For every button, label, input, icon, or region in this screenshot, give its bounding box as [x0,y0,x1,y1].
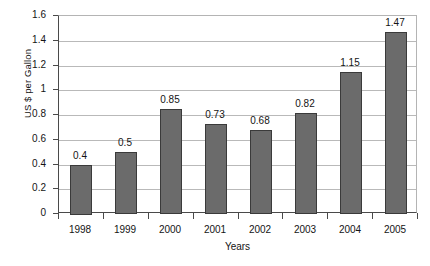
y-tick-label: 0.6 [18,134,46,144]
bar [250,130,272,214]
x-tick-mark [103,213,104,219]
bar-value-label: 0.85 [150,94,190,105]
bar-value-label: 0.68 [240,115,280,126]
x-tick-mark [327,213,328,219]
x-tick-label: 2003 [283,224,327,235]
x-tick-mark [417,213,418,219]
x-tick-mark [372,213,373,219]
bar-value-label: 1.15 [330,57,370,68]
y-tick-label: 1.6 [18,10,46,20]
y-tick-mark [53,164,58,165]
bar-chart: US $ per Gallon 00.20.40.60.811.21.41.6 … [0,0,430,266]
y-tick-mark [53,40,58,41]
y-tick-mark [53,114,58,115]
bar [115,152,137,214]
x-tick-mark [282,213,283,219]
gridline [59,41,416,42]
x-tick-label: 2002 [238,224,282,235]
gridline [59,115,416,116]
bar-value-label: 1.47 [375,17,415,28]
y-tick-label: 1.2 [18,60,46,70]
gridline [59,189,416,190]
x-tick-mark [148,213,149,219]
y-tick-label: 0 [18,208,46,218]
bar-value-label: 0.4 [60,150,100,161]
x-tick-label: 2005 [373,224,417,235]
y-tick-label: 1 [18,84,46,94]
x-tick-label: 2000 [148,224,192,235]
y-tick-label: 1.4 [18,35,46,45]
y-tick-mark [53,65,58,66]
bar-value-label: 0.73 [195,109,235,120]
y-tick-label: 0.2 [18,183,46,193]
x-tick-label: 2001 [193,224,237,235]
plot-area [58,15,417,213]
y-tick-mark [53,15,58,16]
x-tick-mark [238,213,239,219]
x-tick-label: 1998 [58,224,102,235]
x-tick-label: 2004 [328,224,372,235]
bar-value-label: 0.5 [105,137,145,148]
y-tick-label: 0.4 [18,159,46,169]
x-axis-title: Years [58,241,417,252]
bar [340,72,362,214]
gridline [59,165,416,166]
gridline [59,90,416,91]
bar [160,109,182,214]
bar [295,113,317,214]
y-tick-mark [53,89,58,90]
bar [70,165,92,215]
bar [205,124,227,214]
y-tick-label: 0.8 [18,109,46,119]
x-tick-mark [58,213,59,219]
bar [385,32,407,214]
x-tick-mark [193,213,194,219]
y-tick-mark [53,139,58,140]
bar-value-label: 0.82 [285,98,325,109]
x-tick-label: 1999 [103,224,147,235]
y-tick-mark [53,188,58,189]
